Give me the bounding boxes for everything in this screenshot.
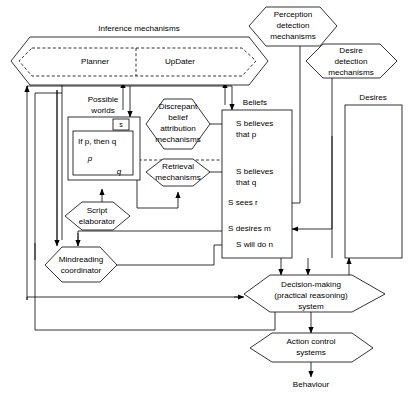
updater-label: UpDater (165, 57, 195, 66)
connector-desire-to-desires-m (292, 78, 332, 229)
mindreading-coordinator-label-2: coordinator (61, 266, 102, 275)
perception-detection-label-2: detection (277, 21, 310, 30)
belief-item-1-line1: S believes (236, 119, 273, 128)
action-control-label-2: systems (296, 348, 326, 357)
diagram-canvas: Inference mechanisms Planner UpDater Per… (0, 0, 413, 397)
discrepant-label-1: Discrepant (159, 102, 198, 111)
desires-label: Desires (359, 93, 386, 102)
desire-detection-label-3: mechanisms (328, 68, 373, 77)
inference-mechanisms-label: Inference mechanisms (98, 24, 179, 33)
inference-mechanisms-hexagon (11, 37, 268, 85)
connector-left-inner-1 (35, 93, 62, 330)
decision-making-label-2: (practical reasoning) (274, 291, 348, 300)
belief-item-2-line2: that q (236, 178, 256, 187)
desire-detection-label-2: detection (335, 57, 368, 66)
connector-bottom-to-decision (27, 297, 240, 300)
action-control-label-1: Action control (286, 337, 335, 346)
discrepant-label-4: mechanisms (155, 135, 200, 144)
belief-item-3: S sees r (228, 198, 258, 207)
belief-item-2-line1: S believes (236, 167, 273, 176)
decision-making-label-3: system (298, 302, 324, 311)
mindreading-architecture-diagram: Inference mechanisms Planner UpDater Per… (0, 0, 413, 397)
possible-worlds-tab-label: s (119, 121, 123, 128)
retrieval-label-1: Retrieval (162, 162, 194, 171)
possible-worlds-label-1: Possible (88, 95, 119, 104)
perception-detection-label-1: Perception (274, 10, 313, 19)
connector-coordinator-to-willdo (114, 245, 228, 265)
script-elaborator-label-1: Script (87, 206, 108, 215)
decision-making-label-1: Decision-making (281, 280, 341, 289)
planner-label: Planner (81, 57, 109, 66)
desire-detection-label-1: Desire (339, 46, 363, 55)
desires-box (345, 105, 402, 258)
discrepant-label-2: belief (168, 113, 188, 122)
beliefs-box (222, 110, 292, 258)
pw-content-q: q (117, 167, 122, 176)
perception-detection-label-3: mechanisms (270, 32, 315, 41)
mindreading-coordinator-label-1: Mindreading (59, 255, 104, 264)
pw-content-conditional: If p, then q (78, 137, 116, 146)
pw-content-p: p (87, 154, 93, 163)
behaviour-label: Behaviour (293, 380, 330, 389)
belief-item-1-line2: that p (236, 130, 257, 139)
discrepant-label-3: attribution (160, 124, 196, 133)
belief-item-5: S will do n (236, 240, 273, 249)
script-elaborator-label-2: elaborator (79, 217, 116, 226)
belief-item-4: S desires m (228, 224, 271, 233)
possible-worlds-label-2: worlds (90, 106, 114, 115)
beliefs-label: Beliefs (243, 98, 267, 107)
connector-coordinator-bus (78, 231, 232, 246)
retrieval-label-2: mechanisms (155, 173, 200, 182)
mindreading-coordinator-hexagon (45, 247, 117, 282)
connector-decision-loopback (35, 300, 275, 330)
